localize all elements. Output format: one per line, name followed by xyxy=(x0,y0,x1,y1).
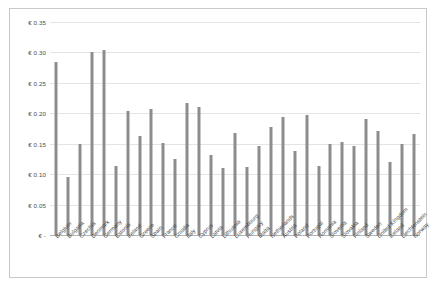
bar-slot xyxy=(289,22,301,235)
bar[interactable] xyxy=(269,127,272,235)
bar[interactable] xyxy=(365,119,368,235)
bar-slot xyxy=(336,22,348,235)
bar[interactable] xyxy=(90,52,93,235)
bar[interactable] xyxy=(281,117,284,235)
bar-slot xyxy=(181,22,193,235)
bar-slot xyxy=(229,22,241,235)
bar[interactable] xyxy=(222,168,225,235)
y-axis-tick-label: € 0.05 xyxy=(28,201,46,208)
bar-slot xyxy=(122,22,134,235)
bar[interactable] xyxy=(54,62,57,235)
bar-slot xyxy=(134,22,146,235)
bar-slot xyxy=(98,22,110,235)
bar-slot xyxy=(50,22,62,235)
bar-slot xyxy=(110,22,122,235)
bar-slot xyxy=(277,22,289,235)
plot-area: € -€ 0.05€ 0.10€ 0.15€ 0.20€ 0.25€ 0.30€… xyxy=(50,22,420,235)
bar-slot xyxy=(169,22,181,235)
y-axis-tick-label: € 0.35 xyxy=(28,19,46,26)
bar-slot xyxy=(348,22,360,235)
y-axis-tick-label: € 0.25 xyxy=(28,79,46,86)
bar-slot xyxy=(74,22,86,235)
bar-slot xyxy=(301,22,313,235)
bar[interactable] xyxy=(186,103,189,235)
bar-slot xyxy=(408,22,420,235)
bar-slot xyxy=(396,22,408,235)
bar-slot xyxy=(313,22,325,235)
bar-slot xyxy=(62,22,74,235)
chart-frame: € -€ 0.05€ 0.10€ 0.15€ 0.20€ 0.25€ 0.30€… xyxy=(9,8,427,278)
bar[interactable] xyxy=(305,115,308,235)
y-axis-tick-label: € 0.10 xyxy=(28,171,46,178)
bar-slot xyxy=(372,22,384,235)
bar-slot xyxy=(157,22,169,235)
bar-slot xyxy=(265,22,277,235)
bar-slot xyxy=(145,22,157,235)
bar-slot xyxy=(360,22,372,235)
bar-slot xyxy=(253,22,265,235)
bar-slot xyxy=(325,22,337,235)
bar[interactable] xyxy=(102,50,105,235)
bar-slot xyxy=(205,22,217,235)
bar[interactable] xyxy=(138,136,141,235)
bar-slot xyxy=(217,22,229,235)
bar-slot xyxy=(193,22,205,235)
bar[interactable] xyxy=(162,143,165,236)
y-axis-tick-label: € - xyxy=(38,232,46,239)
bar[interactable] xyxy=(126,111,129,235)
y-axis-tick-label: € 0.20 xyxy=(28,110,46,117)
bar-slot xyxy=(241,22,253,235)
y-axis-tick-label: € 0.15 xyxy=(28,140,46,147)
x-axis-category-labels: BelgiumBulgariaCzechiaDenmarkGermanyEsto… xyxy=(50,235,420,288)
bar-series xyxy=(50,22,420,235)
bar-slot xyxy=(86,22,98,235)
bar[interactable] xyxy=(198,107,201,235)
bar[interactable] xyxy=(150,109,153,235)
bar-slot xyxy=(384,22,396,235)
y-axis-tick-label: € 0.30 xyxy=(28,49,46,56)
